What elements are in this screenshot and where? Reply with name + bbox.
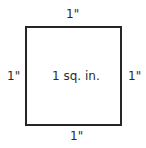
bottom-side-label: 1" <box>70 130 83 142</box>
area-label: 1 sq. in. <box>52 70 100 82</box>
left-side-label: 1" <box>7 70 20 82</box>
top-side-label: 1" <box>66 8 79 20</box>
right-side-label: 1" <box>128 70 141 82</box>
